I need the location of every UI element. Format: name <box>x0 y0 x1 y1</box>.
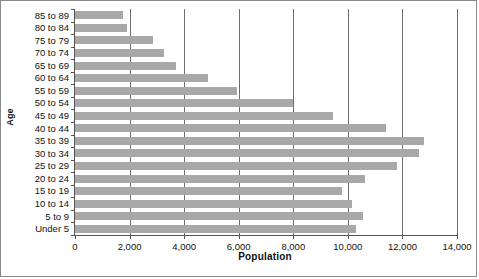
bar-row <box>75 172 457 185</box>
y-tick-mark <box>71 122 75 123</box>
y-tick-mark <box>71 222 75 223</box>
plot-area: 02,0004,0006,0008,00010,00012,00014,000 <box>74 9 457 236</box>
bar <box>75 36 153 44</box>
x-tick <box>75 235 76 239</box>
bar <box>75 11 123 19</box>
y-tick-label: 45 to 49 <box>17 110 72 123</box>
bar <box>75 24 127 32</box>
x-axis-title: Population <box>74 251 456 262</box>
y-tick-label: 55 to 59 <box>17 84 72 97</box>
bar-row <box>75 122 457 135</box>
bar <box>75 175 365 183</box>
y-tick-mark <box>71 235 75 236</box>
bar <box>75 87 237 95</box>
y-axis-tick-labels: 85 to 8980 to 8475 to 7970 to 7465 to 69… <box>17 9 72 235</box>
y-axis-title-text: Age <box>3 97 17 137</box>
bar-row <box>75 223 457 236</box>
y-tick-label: 10 to 14 <box>17 197 72 210</box>
y-tick-mark <box>71 34 75 35</box>
bar <box>75 212 363 220</box>
y-tick-mark <box>71 210 75 211</box>
y-tick-mark <box>71 72 75 73</box>
bar-row <box>75 160 457 173</box>
x-tick <box>293 235 294 239</box>
y-tick-label: 20 to 24 <box>17 172 72 185</box>
y-tick-mark <box>71 84 75 85</box>
y-tick-mark <box>71 197 75 198</box>
bar-row <box>75 135 457 148</box>
bar <box>75 162 397 170</box>
bar-row <box>75 9 457 22</box>
y-tick-label: 25 to 29 <box>17 160 72 173</box>
bar <box>75 149 419 157</box>
bar <box>75 225 356 233</box>
y-tick-label: 80 to 84 <box>17 22 72 35</box>
gridline <box>457 9 458 235</box>
y-tick-mark <box>71 109 75 110</box>
bar-row <box>75 97 457 110</box>
bar-series <box>75 9 457 235</box>
y-tick-label: 5 to 9 <box>17 210 72 223</box>
bar-row <box>75 185 457 198</box>
x-tick <box>130 235 131 239</box>
x-tick <box>239 235 240 239</box>
y-tick-label: 65 to 69 <box>17 59 72 72</box>
y-tick-mark <box>71 97 75 98</box>
y-tick-label: 30 to 34 <box>17 147 72 160</box>
y-tick-label: 15 to 19 <box>17 185 72 198</box>
x-tick <box>457 235 458 239</box>
bar <box>75 62 176 70</box>
y-tick-label: Under 5 <box>17 223 72 236</box>
y-tick-label: 75 to 79 <box>17 34 72 47</box>
bar-row <box>75 210 457 223</box>
bar-row <box>75 84 457 97</box>
y-tick-mark <box>71 22 75 23</box>
y-tick-mark <box>71 135 75 136</box>
y-tick-label: 50 to 54 <box>17 97 72 110</box>
x-tick <box>402 235 403 239</box>
y-tick-mark <box>71 160 75 161</box>
bar-row <box>75 34 457 47</box>
bar <box>75 74 208 82</box>
bar <box>75 200 352 208</box>
y-tick-mark <box>71 47 75 48</box>
bar <box>75 124 386 132</box>
bar-row <box>75 147 457 160</box>
x-tick <box>184 235 185 239</box>
bar-row <box>75 110 457 123</box>
x-tick <box>348 235 349 239</box>
bar <box>75 137 424 145</box>
bar-row <box>75 72 457 85</box>
y-tick-mark <box>71 172 75 173</box>
y-tick-label: 60 to 64 <box>17 72 72 85</box>
y-tick-mark <box>71 59 75 60</box>
y-axis-title: Age <box>3 97 17 137</box>
bar-row <box>75 22 457 35</box>
bar <box>75 49 164 57</box>
bar <box>75 99 293 107</box>
y-tick-mark <box>71 9 75 10</box>
y-tick-label: 85 to 89 <box>17 9 72 22</box>
bar-row <box>75 59 457 72</box>
y-tick-mark <box>71 185 75 186</box>
bar <box>75 112 333 120</box>
chart-container: Age 85 to 8980 to 8475 to 7970 to 7465 t… <box>0 0 477 277</box>
bar-row <box>75 47 457 60</box>
y-tick-mark <box>71 147 75 148</box>
y-tick-label: 40 to 44 <box>17 122 72 135</box>
y-tick-label: 35 to 39 <box>17 135 72 148</box>
y-tick-label: 70 to 74 <box>17 47 72 60</box>
bar <box>75 187 342 195</box>
bar-row <box>75 197 457 210</box>
